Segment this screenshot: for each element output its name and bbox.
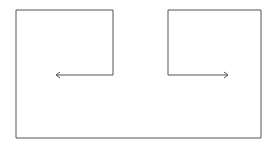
right-arrow	[168, 72, 228, 78]
left-arrow	[56, 72, 113, 78]
flow-diagram	[0, 0, 276, 147]
outline-path	[16, 10, 261, 138]
